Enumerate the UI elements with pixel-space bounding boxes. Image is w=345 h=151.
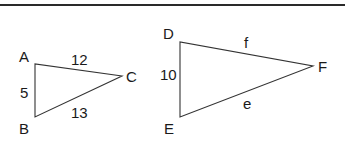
vertex-d-label: D: [163, 25, 174, 42]
side-bc-label: 13: [71, 104, 88, 121]
vertex-b-label: B: [19, 120, 29, 137]
triangle-diagram: A B C 12 5 13 D E F f 10 e: [0, 0, 345, 151]
side-df-label: f: [244, 34, 249, 51]
vertex-c-label: C: [126, 68, 137, 85]
triangle-def: D E F f 10 e: [160, 25, 327, 137]
side-de-label: 10: [160, 66, 177, 83]
side-ac-label: 12: [71, 51, 88, 68]
vertex-f-label: F: [318, 58, 327, 75]
side-ab-label: 5: [20, 84, 28, 101]
vertex-e-label: E: [164, 120, 174, 137]
side-ef-label: e: [243, 95, 251, 112]
vertex-a-label: A: [19, 48, 29, 65]
triangle-abc: A B C 12 5 13: [19, 48, 137, 137]
